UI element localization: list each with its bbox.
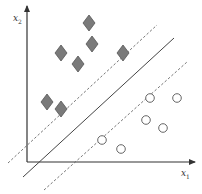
x-axis-label-subscript: 1 [186,173,190,180]
plot-canvas [0,0,202,194]
diamond-point [83,15,95,31]
svm-diagram: x2 x1 [0,0,202,194]
circle-point [173,94,182,103]
y-axis-label-subscript: 2 [18,18,22,25]
diamond-point [72,56,84,72]
diamond-point [117,45,129,61]
diamond-point [86,36,98,52]
circle-point [98,136,107,145]
class-a-points [41,15,129,117]
circle-point [146,94,155,103]
circle-point [117,145,126,154]
diamond-point [41,94,53,110]
x-axis-label: x1 [181,169,190,180]
diamond-point [55,101,67,117]
separating-lines [8,25,187,190]
circle-point [159,124,168,133]
y-axis-label: x2 [13,14,22,25]
margin-line-upper [8,25,157,163]
diamond-point [55,45,67,61]
circle-point [142,116,151,125]
class-b-points [98,94,182,154]
